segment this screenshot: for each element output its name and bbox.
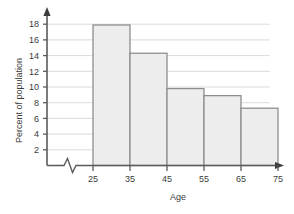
x-tick-marks <box>93 166 278 172</box>
y-tick-label-4: 4 <box>34 129 39 139</box>
y-tick-label-10: 10 <box>29 82 39 92</box>
y-axis-title: Percent of population <box>14 58 24 143</box>
y-tick-label-2: 2 <box>34 145 39 155</box>
bar-55-65 <box>204 96 241 166</box>
x-tick-label-55: 55 <box>199 174 209 184</box>
y-axis-arrow-icon <box>43 7 50 16</box>
y-tick-label-8: 8 <box>34 98 39 108</box>
x-tick-label-75: 75 <box>273 174 283 184</box>
x-tick-labels: 25 35 45 55 65 75 <box>88 174 283 184</box>
x-axis-arrow-icon <box>275 162 284 169</box>
bar-65-75 <box>241 108 278 165</box>
y-axis <box>43 7 50 166</box>
y-tick-label-16: 16 <box>29 35 39 45</box>
x-tick-label-65: 65 <box>236 174 246 184</box>
x-axis-break-icon <box>59 158 81 173</box>
x-axis-title: Age <box>170 192 186 202</box>
bar-35-45 <box>130 53 167 165</box>
y-tick-label-14: 14 <box>29 51 39 61</box>
y-tick-label-6: 6 <box>34 114 39 124</box>
histogram-chart: 18 16 14 12 10 8 6 4 2 25 35 45 55 65 75… <box>0 0 294 214</box>
x-tick-label-35: 35 <box>125 174 135 184</box>
bar-45-55 <box>167 89 204 166</box>
y-tick-labels: 18 16 14 12 10 8 6 4 2 <box>29 19 39 155</box>
bar-25-35 <box>93 25 130 166</box>
bars <box>93 25 278 166</box>
chart-canvas: 18 16 14 12 10 8 6 4 2 25 35 45 55 65 75… <box>0 0 294 214</box>
x-tick-label-45: 45 <box>162 174 172 184</box>
y-tick-label-12: 12 <box>29 67 39 77</box>
x-tick-label-25: 25 <box>88 174 98 184</box>
y-tick-label-18: 18 <box>29 19 39 29</box>
